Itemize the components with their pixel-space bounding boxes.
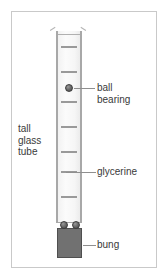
graduation-tick (61, 196, 77, 198)
label-ball-bearing: ball bearing (97, 82, 130, 105)
graduation-tick (61, 151, 77, 153)
graduation-tick (61, 101, 77, 103)
graduation-tick (61, 126, 77, 128)
settled-ball-bearing-icon (72, 221, 80, 229)
label-bung: bung (97, 239, 119, 251)
bung-icon (57, 228, 82, 258)
graduation-tick (61, 71, 77, 73)
tube-wall-left (56, 31, 58, 223)
ball-bearing-icon (65, 84, 73, 92)
tube-wall-right (80, 31, 82, 223)
label-tall-glass-tube: tall glass tube (18, 123, 41, 158)
settled-ball-bearing-icon (60, 221, 68, 229)
glycerine-surface-line (58, 34, 80, 35)
leader-line-glycerine (66, 172, 96, 173)
diagram-canvas: tall glass tube ball bearing glycerine b… (0, 0, 168, 279)
leader-line-bung (83, 245, 96, 246)
label-glycerine: glycerine (97, 166, 137, 178)
leader-line-ball-bearing (74, 88, 95, 89)
graduation-tick (61, 46, 77, 48)
